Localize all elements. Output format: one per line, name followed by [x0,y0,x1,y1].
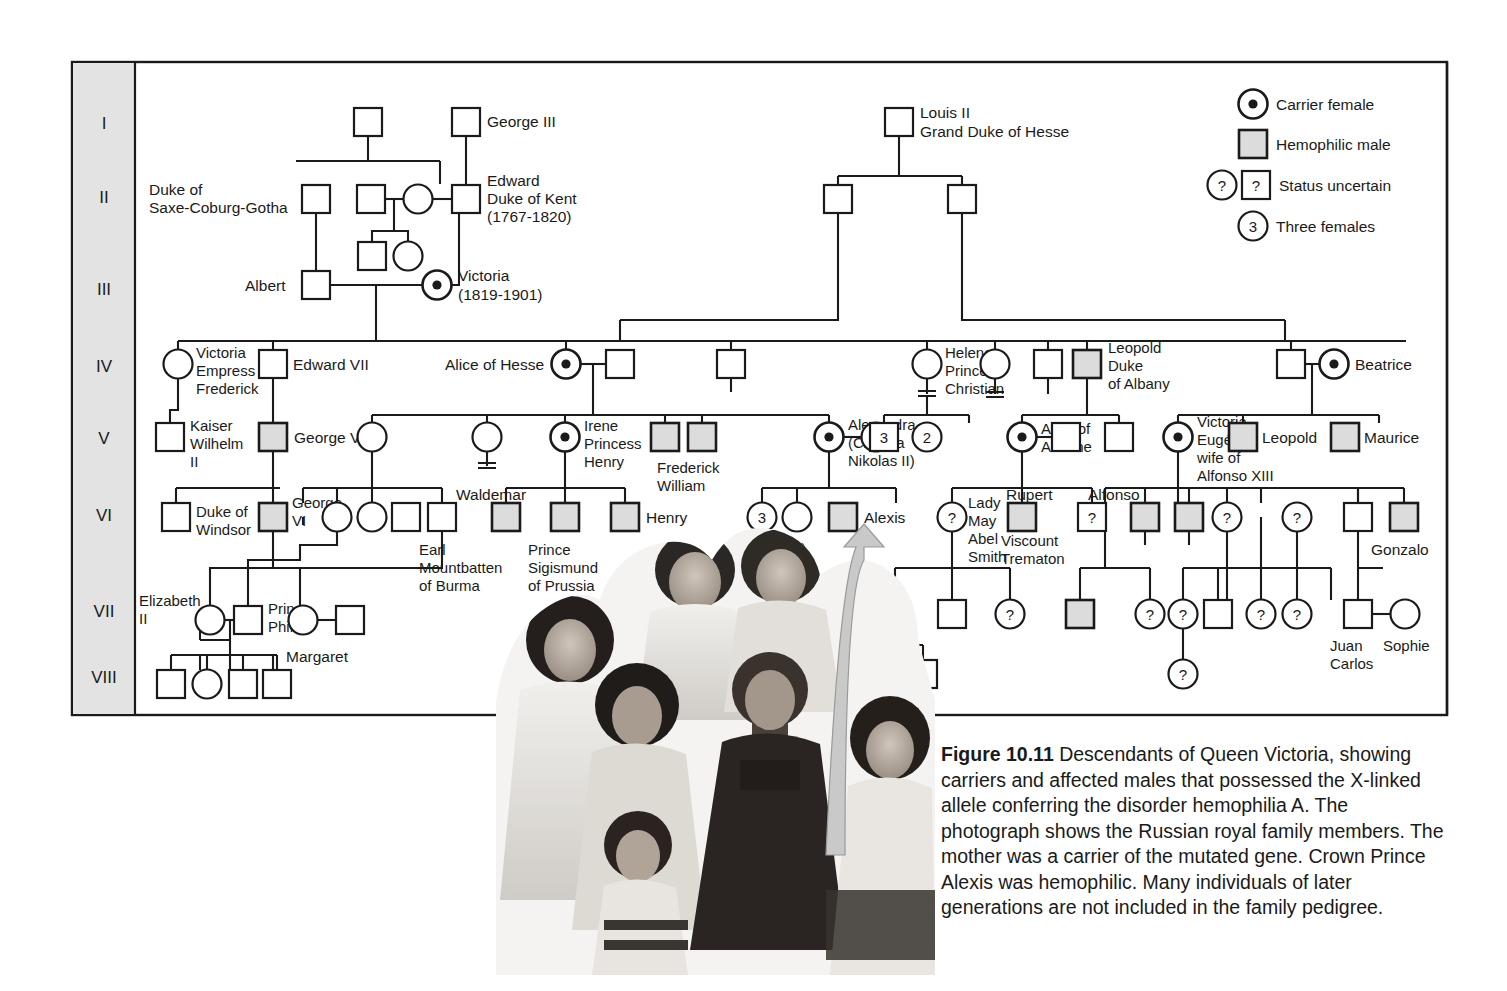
node-juan-carlos[interactable] [1344,600,1372,628]
label-leopold: Leopold [1262,429,1317,446]
node-prince-phillip[interactable] [234,606,262,634]
node-beatrice-spouse[interactable] [1277,350,1305,378]
node-beatrice[interactable] [1320,350,1349,379]
node-gen8-male-2[interactable] [229,670,257,698]
label-edward-kent-line3: (1767-1820) [487,208,571,225]
label-sigismund-line3: of Prussia [528,577,595,594]
node-frederick-william[interactable] [688,423,716,451]
node-edward-duke-of-kent[interactable] [452,185,480,213]
label-g7-uncertain-4: ? [1179,606,1187,623]
node-gen4-female-unnamed[interactable] [981,350,1010,379]
label-g7-uncertain-6: ? [1293,606,1301,623]
node-gen6-male-unnamed-2[interactable] [1344,503,1372,531]
legend-uncertain-male-glyph: ? [1252,177,1260,194]
legend-three-females-label: Three females [1276,218,1375,235]
label-two-count-circle: 2 [923,429,931,446]
label-helena-line3: Christian [945,380,1004,397]
label-sigismund-line1: Prince [528,541,571,558]
generation-label-VII: VII [94,602,115,621]
label-alexandra-line3: Nikolas II) [848,452,915,469]
label-g8-uncertain-2: ? [1179,666,1187,683]
label-elizabeth-ii-line2: II [139,610,147,627]
node-gen6-male-unnamed-1[interactable] [392,503,420,531]
node-leopold[interactable] [1229,423,1257,451]
node-gen5-female-unnamed-1[interactable] [358,423,387,452]
node-victoria-empress-frederick[interactable] [164,350,193,379]
legend-status-uncertain-label: Status uncertain [1279,177,1391,194]
node-alice-of-athlone[interactable] [1008,423,1037,452]
label-duke-windsor-line1: Duke of [196,503,249,520]
node-gen8-female-1[interactable] [193,670,222,699]
node-prince-sigismund[interactable] [551,503,579,531]
node-george-v[interactable] [259,423,287,451]
node-alfonso[interactable] [1131,503,1159,531]
node-henry[interactable] [611,503,639,531]
node-elizabeth-ii[interactable] [196,606,225,635]
label-duke-saxe-coburg-line1: Duke of [149,181,203,198]
node-alexandra[interactable] [815,423,844,452]
node-gen4-male-unnamed[interactable] [717,350,745,378]
figure-caption: Figure 10.11 Descendants of Queen Victor… [941,742,1449,921]
node-gonzalo[interactable] [1390,503,1418,531]
label-sigismund-line2: Sigismund [528,559,598,576]
node-gen5-affected-male-1[interactable] [651,423,679,451]
label-leopold-albany-line1: Leopold [1108,339,1161,356]
label-mountbatten-line1: Earl [419,541,446,558]
node-gen7-affected-male-1[interactable] [1066,600,1094,628]
label-victoria-line1: Victoria [458,267,510,284]
node-leopold-duke-of-albany[interactable] [1073,350,1101,378]
label-gonzalo: Gonzalo [1371,541,1429,558]
node-kaiser-wilhelm-ii[interactable] [156,423,184,451]
node-earl-mountbatten[interactable] [428,503,456,531]
node-gen6-female-unnamed-2[interactable] [358,503,387,532]
generation-label-VIII: VIII [91,668,117,687]
label-duke-saxe-coburg-line2: Saxe-Coburg-Gotha [149,199,288,216]
node-gen7-male-unnamed-2[interactable] [1204,600,1232,628]
node-alexis[interactable] [829,503,857,531]
label-vef-line1: Victoria [196,344,246,361]
node-alice-of-hesse-spouse[interactable] [606,350,634,378]
node-gen1-male-unnamed[interactable] [354,108,382,136]
node-gen6-female-unnamed-1[interactable] [323,503,352,532]
node-george-vi[interactable] [259,503,287,531]
node-gen5-female-unnamed-2[interactable] [473,423,502,452]
node-maurice[interactable] [1331,423,1359,451]
node-gen6-affected-male-2[interactable] [1175,503,1203,531]
node-albert[interactable] [302,271,330,299]
node-hesse-son-1[interactable] [824,185,852,213]
label-margaret: Margaret [286,648,349,665]
node-victoria[interactable] [423,271,452,300]
node-viscount-trematon[interactable] [1008,503,1036,531]
label-kaiser-line2: Wilhelm [190,435,243,452]
label-rupert: Rupert [1006,486,1053,503]
node-louis-ii[interactable] [885,108,913,136]
node-gen5-male-unnamed-3[interactable] [1105,423,1133,451]
node-gen2-female-unnamed[interactable] [404,185,433,214]
node-george-iii[interactable] [452,108,480,136]
node-edward-vii[interactable] [259,350,287,378]
node-duke-of-saxe-coburg-gotha[interactable] [302,185,330,213]
node-victoria-eugenie[interactable] [1164,423,1193,452]
node-margaret[interactable] [289,606,318,635]
node-gen2b-female-unnamed[interactable] [394,242,423,271]
node-gen8-male-3[interactable] [263,670,291,698]
node-margaret-spouse[interactable] [336,606,364,634]
legend-hemophilic-male-label: Hemophilic male [1276,136,1391,153]
node-sophie[interactable] [1391,600,1420,629]
node-duke-of-windsor[interactable] [162,503,190,531]
node-helena-princess-christian[interactable] [913,350,942,379]
node-anastasia[interactable] [783,503,812,532]
node-gen2-male-unnamed[interactable] [357,185,385,213]
node-irene-princess-henry[interactable] [551,423,580,452]
node-alice-of-hesse[interactable] [552,350,581,379]
node-gen2b-male-unnamed[interactable] [358,242,386,270]
node-hesse-son-2[interactable] [948,185,976,213]
node-alice-athlone-spouse[interactable] [1052,423,1080,451]
node-gen8-male-1[interactable] [157,670,185,698]
node-gen7-male-unnamed-1[interactable] [938,600,966,628]
label-g7-uncertain-5: ? [1257,606,1265,623]
node-gen4-male-unnamed-2[interactable] [1034,350,1062,378]
node-waldemar[interactable] [492,503,520,531]
label-trematon-line2: Trematon [1001,550,1065,567]
label-lady-may-line2: May [968,512,997,529]
